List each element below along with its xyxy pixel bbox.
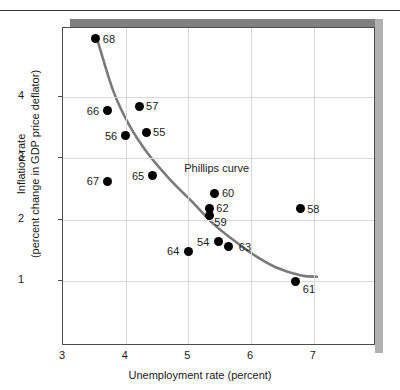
x-tick-label: 7 xyxy=(303,350,323,361)
y-tick-mark xyxy=(58,219,62,220)
data-point-marker xyxy=(135,102,144,111)
gridline-vertical xyxy=(251,28,252,344)
y-axis-title-line2: (percent change in GDP price deflator) xyxy=(28,54,42,274)
data-point-label: 60 xyxy=(222,188,234,199)
x-tick-label: 5 xyxy=(177,350,197,361)
gridline-vertical xyxy=(188,28,189,344)
data-point-label: 54 xyxy=(197,237,209,248)
data-point-label: 58 xyxy=(307,204,319,215)
data-point-marker xyxy=(103,177,112,186)
data-point-label: 67 xyxy=(87,176,99,187)
data-point-label: 55 xyxy=(153,127,165,138)
x-tick-label: 3 xyxy=(52,350,72,361)
plot-shadow-top xyxy=(70,19,382,27)
gridline-horizontal xyxy=(63,281,374,282)
phillips-curve-figure: 123434567 Phillips curve6866675657556564… xyxy=(0,0,400,390)
data-point-label: 64 xyxy=(167,246,179,257)
data-point-label: 61 xyxy=(303,284,315,295)
phillips-curve-line xyxy=(63,28,376,346)
data-point-marker xyxy=(184,247,193,256)
data-point-label: 63 xyxy=(239,242,251,253)
header-rule xyxy=(0,10,400,11)
gridline-horizontal xyxy=(63,158,374,159)
gridline-vertical xyxy=(126,28,127,344)
x-axis-title: Unemployment rate (percent) xyxy=(0,369,400,381)
data-point-label: 57 xyxy=(146,101,158,112)
y-tick-mark xyxy=(58,96,62,97)
y-axis-title-line1: Inflation rate xyxy=(14,54,28,274)
data-point-label: 56 xyxy=(105,131,117,142)
y-tick-mark xyxy=(58,157,62,158)
data-point-label: 59 xyxy=(214,217,226,228)
data-point-label: 66 xyxy=(87,106,99,117)
data-point-marker xyxy=(142,128,151,137)
y-tick-label: 1 xyxy=(18,274,24,285)
x-tick-label: 6 xyxy=(240,350,260,361)
data-point-label: 68 xyxy=(103,34,115,45)
curve-annotation: Phillips curve xyxy=(184,162,249,174)
gridline-vertical xyxy=(314,28,315,344)
data-point-label: 65 xyxy=(132,171,144,182)
y-axis-title: Inflation rate (percent change in GDP pr… xyxy=(14,54,42,274)
x-tick-label: 4 xyxy=(115,350,135,361)
data-point-marker xyxy=(296,204,305,213)
gridline-horizontal xyxy=(63,97,374,98)
y-tick-mark xyxy=(58,280,62,281)
plot-shadow-right xyxy=(375,19,383,353)
plot-area xyxy=(62,27,375,345)
data-point-label: 62 xyxy=(216,203,228,214)
